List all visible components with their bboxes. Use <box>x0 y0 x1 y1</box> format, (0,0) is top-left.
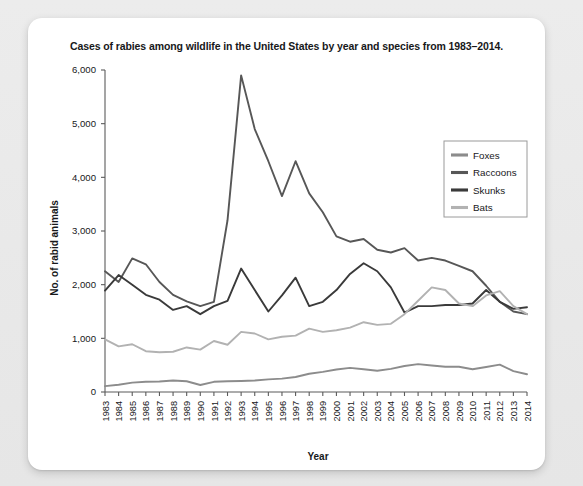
legend-label-raccoons[interactable]: Raccoons <box>473 167 517 178</box>
x-tick-label: 2000 <box>332 401 342 421</box>
y-axis-title: No. of rabid animals <box>49 200 60 296</box>
chart-card: Cases of rabies among wildlife in the Un… <box>28 18 545 470</box>
x-tick-label: 2001 <box>346 401 356 421</box>
x-axis: 1983198419851986198719881989199019911992… <box>101 392 533 421</box>
legend-label-skunks[interactable]: Skunks <box>473 185 505 196</box>
x-tick-label: 1992 <box>223 401 233 421</box>
y-tick-label: 3,000 <box>72 225 96 236</box>
x-tick-label: 1991 <box>210 401 220 421</box>
y-tick-label: 0 <box>91 386 96 397</box>
x-tick-label: 2014 <box>523 401 533 421</box>
series-line-bats <box>105 287 527 352</box>
y-tick-label: 6,000 <box>72 64 96 75</box>
x-tick-label: 1996 <box>278 401 288 421</box>
x-tick-label: 1998 <box>305 401 315 421</box>
x-tick-label: 2007 <box>427 401 437 421</box>
x-tick-label: 1986 <box>141 401 151 421</box>
x-tick-label: 1993 <box>237 401 247 421</box>
x-tick-label: 1987 <box>155 401 165 421</box>
series-line-foxes <box>105 364 527 386</box>
x-tick-label: 1995 <box>264 401 274 421</box>
x-tick-label: 1983 <box>101 401 111 421</box>
legend-label-bats[interactable]: Bats <box>473 202 493 213</box>
chart-legend[interactable]: FoxesRaccoonsSkunksBats <box>444 141 527 217</box>
y-axis: 01,0002,0003,0004,0005,0006,000 <box>72 64 105 397</box>
chart-plot-area: 01,0002,0003,0004,0005,0006,000 19831984… <box>28 18 545 470</box>
x-tick-label: 1994 <box>250 401 260 421</box>
x-tick-label: 2009 <box>455 401 465 421</box>
y-tick-label: 4,000 <box>72 172 96 183</box>
x-tick-label: 1988 <box>169 401 179 421</box>
x-tick-label: 2004 <box>386 401 396 421</box>
x-tick-label: 1989 <box>182 401 192 421</box>
y-tick-label: 1,000 <box>72 333 96 344</box>
x-tick-label: 1997 <box>291 401 301 421</box>
legend-label-foxes[interactable]: Foxes <box>473 150 500 161</box>
line-chart: 01,0002,0003,0004,0005,0006,000 19831984… <box>28 18 545 470</box>
x-axis-title: Year <box>307 451 328 462</box>
x-tick-label: 2011 <box>482 401 492 421</box>
x-tick-label: 2008 <box>441 401 451 421</box>
y-tick-label: 2,000 <box>72 279 96 290</box>
x-tick-label: 2005 <box>400 401 410 421</box>
x-tick-label: 2003 <box>373 401 383 421</box>
y-tick-label: 5,000 <box>72 118 96 129</box>
x-tick-label: 1985 <box>128 401 138 421</box>
screenshot-root: Cases of rabies among wildlife in the Un… <box>0 0 583 486</box>
series-lines <box>105 75 527 386</box>
x-tick-label: 2013 <box>509 401 519 421</box>
x-tick-label: 2012 <box>495 401 505 421</box>
series-line-skunks <box>105 263 527 314</box>
x-tick-label: 2010 <box>468 401 478 421</box>
x-tick-label: 1984 <box>114 401 124 421</box>
x-tick-label: 1999 <box>318 401 328 421</box>
x-tick-label: 2006 <box>414 401 424 421</box>
x-tick-label: 1990 <box>196 401 206 421</box>
x-tick-label: 2002 <box>359 401 369 421</box>
